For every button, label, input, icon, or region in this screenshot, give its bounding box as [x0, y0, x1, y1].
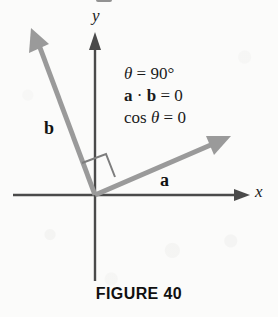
equation-cosine: cos θ = 0 [124, 107, 186, 129]
dot-operator: · [137, 86, 143, 105]
cos-equals-sign: = [164, 108, 174, 127]
vector-diagram [0, 0, 278, 317]
cos-theta-symbol: θ [151, 108, 159, 127]
dot-product-vector-b: b [147, 86, 156, 105]
y-axis-arrowhead [89, 32, 101, 50]
y-axis-label: y [92, 6, 100, 26]
x-axis-arrowhead [234, 189, 250, 201]
cos-function-name: cos [124, 108, 147, 127]
vector-a-label: a [160, 170, 169, 191]
cos-value: 0 [177, 108, 186, 127]
vector-b-label: b [44, 118, 54, 139]
equation-dot-product: a · b = 0 [124, 85, 186, 107]
theta-symbol: θ [124, 64, 132, 83]
theta-value: 90° [150, 64, 174, 83]
figure-40-container: y x b a θ = 90° a · b = 0 cos θ = 0 FIGU… [0, 0, 278, 317]
dot-product-value: 0 [174, 86, 183, 105]
dot-product-equals-sign: = [160, 86, 170, 105]
x-axis-label: x [255, 182, 263, 202]
figure-caption: FIGURE 40 [0, 285, 278, 303]
theta-equals-sign: = [137, 64, 147, 83]
annotation-equations: θ = 90° a · b = 0 cos θ = 0 [124, 63, 186, 129]
dot-product-vector-a: a [124, 86, 133, 105]
equation-theta: θ = 90° [124, 63, 186, 85]
